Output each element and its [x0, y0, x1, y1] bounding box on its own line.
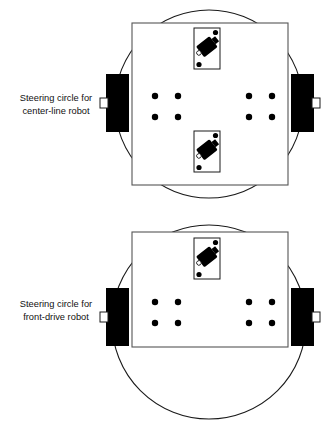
caption-center-line-robot-line2: center-line robot: [22, 106, 90, 116]
mount-dot: [152, 93, 158, 99]
axle-stub-right: [312, 98, 320, 108]
motor-bolt-dot: [213, 133, 218, 138]
wheel-right: [291, 288, 314, 346]
mount-dot: [175, 299, 181, 305]
mount-dot: [175, 114, 181, 120]
axle-stub-left: [100, 98, 108, 108]
axle-stub-left: [100, 312, 108, 322]
mount-dot: [269, 114, 275, 120]
mount-dot: [152, 299, 158, 305]
motor-bolt-dot: [196, 272, 201, 277]
motor-module-front: [193, 238, 221, 279]
mount-dot: [269, 320, 275, 326]
motor-bolt-dot: [213, 30, 218, 35]
steering-circle-diagram: Steering circle for center-line robot: [0, 0, 327, 426]
axle-stub-right: [312, 312, 320, 322]
mount-dot: [152, 320, 158, 326]
caption-center-line-robot-line1: Steering circle for: [20, 93, 92, 103]
mount-dot: [152, 114, 158, 120]
mount-dot: [246, 299, 252, 305]
motor-bolt-dot: [196, 62, 201, 67]
mount-dot: [246, 320, 252, 326]
mount-dot: [175, 93, 181, 99]
wheel-left: [106, 288, 129, 346]
mount-dot: [246, 93, 252, 99]
mount-dot: [269, 93, 275, 99]
motor-module-front: [193, 28, 221, 69]
caption-front-drive-robot-line2: front-drive robot: [23, 312, 89, 322]
wheel-left: [106, 74, 129, 132]
mount-dot: [269, 299, 275, 305]
motor-bolt-dot: [196, 165, 201, 170]
motor-module-rear: [193, 131, 221, 172]
wheel-right: [291, 74, 314, 132]
mount-dot: [246, 114, 252, 120]
mount-dot: [175, 320, 181, 326]
caption-front-drive-robot-line1: Steering circle for: [20, 299, 92, 309]
motor-bolt-dot: [213, 240, 218, 245]
